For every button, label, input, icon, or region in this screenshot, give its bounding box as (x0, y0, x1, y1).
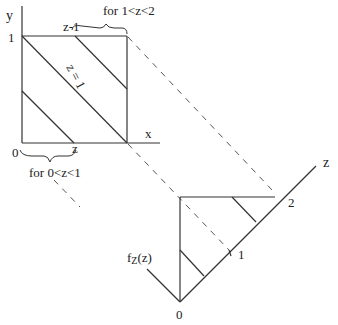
z-minus-1-label: z-1 (63, 19, 80, 34)
diagonal-label: z = 1 (63, 61, 89, 91)
density-inner-line-lower (180, 250, 204, 276)
density-function-axis (147, 269, 180, 302)
projection-dashed-upper (128, 37, 272, 190)
z-axis (180, 166, 316, 302)
origin-label-square: 0 (12, 145, 19, 160)
lower-range-label: for 0<z<1 (29, 165, 81, 180)
density-function-label: fZ(z) (127, 250, 152, 266)
upper-range-label: for 1<z<2 (103, 3, 155, 18)
origin-label-density: 0 (176, 307, 183, 322)
diagonal-lower (22, 91, 74, 143)
tick-2-label: 2 (288, 195, 295, 210)
x-axis-label: x (145, 126, 152, 141)
z-intercept-label: z (72, 141, 78, 156)
y-tick-1-label: 1 (8, 30, 15, 45)
diagonal-z-equals-1 (22, 36, 127, 143)
lower-brace (20, 150, 76, 162)
density-inner-line-upper (232, 197, 256, 222)
tick-1-label: 1 (238, 247, 245, 262)
upper-brace (72, 24, 127, 34)
z-axis-label: z (323, 155, 329, 170)
diagram-canvas: y 1 x 0 z z-1 for 1<z<2 for 0<z<1 z = 1 … (0, 0, 338, 325)
y-axis-label: y (6, 8, 13, 23)
projection-dashed-lower (54, 180, 80, 207)
